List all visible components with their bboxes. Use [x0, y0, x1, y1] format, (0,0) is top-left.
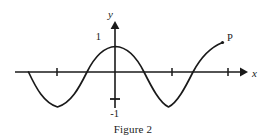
- figure-caption: Figure 2: [0, 123, 266, 135]
- y-tick-label-one: 1: [96, 31, 101, 42]
- y-tick-label-negative-one: -1: [110, 108, 119, 119]
- point-p-label: P: [227, 32, 233, 43]
- figure-container: y x 1 -1 P Figure 2: [0, 0, 266, 137]
- x-axis-label: x: [251, 67, 257, 79]
- y-axis-arrowhead-icon: [111, 21, 120, 29]
- y-axis-label: y: [107, 8, 113, 20]
- graph-canvas: y x 1 -1 P: [0, 0, 266, 137]
- x-axis-arrowhead-icon: [240, 68, 248, 77]
- endpoint-marker: [221, 41, 224, 44]
